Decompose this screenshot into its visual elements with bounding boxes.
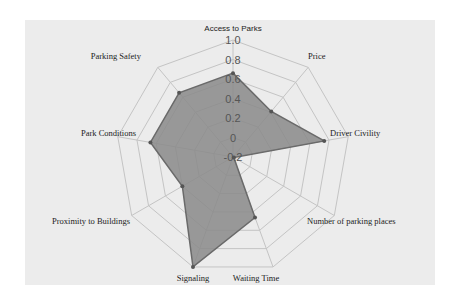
axis-label: Price — [308, 51, 326, 61]
data-point — [148, 140, 152, 144]
axis-label: Number of parking places — [307, 216, 396, 226]
axis-label: Park Conditions — [81, 128, 136, 138]
data-point — [253, 215, 257, 219]
data-point — [269, 109, 273, 113]
radial-tick-label: 0.4 — [225, 93, 240, 105]
axis-label: Proximity to Buildings — [52, 216, 130, 226]
radial-tick-label: 0.8 — [225, 54, 240, 66]
radial-tick-label: 1.0 — [225, 34, 240, 46]
radial-tick-label: 0 — [230, 132, 236, 144]
radial-tick-label: 0.6 — [225, 73, 240, 85]
axis-label: Waiting Time — [233, 273, 280, 283]
data-point — [322, 139, 326, 143]
axis-label: Access to Parks — [204, 24, 261, 33]
data-point — [191, 265, 195, 269]
axis-label: Driver Civility — [330, 128, 381, 138]
radar-chart: -0.200.20.40.60.81.0 Access to ParksPric… — [0, 0, 453, 297]
data-point — [177, 91, 181, 95]
axis-label: Signaling — [177, 273, 210, 283]
axis-label: Parking Safety — [91, 51, 142, 61]
data-point — [180, 184, 184, 188]
radial-tick-label: 0.2 — [225, 112, 240, 124]
radial-tick-label: -0.2 — [224, 151, 243, 163]
